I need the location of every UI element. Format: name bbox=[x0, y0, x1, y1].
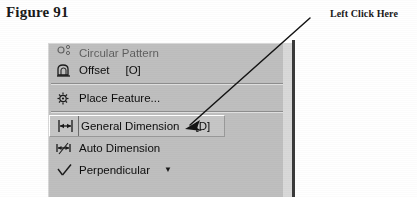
menu-item-perpendicular[interactable]: Perpendicular ▼ bbox=[49, 159, 295, 181]
general-dimension-icon bbox=[53, 116, 79, 136]
place-feature-icon bbox=[52, 89, 77, 107]
menu-item-label: Place Feature... bbox=[77, 92, 160, 104]
menu-item-circular-pattern[interactable]: Circular Pattern bbox=[49, 44, 295, 59]
menu-item-label: Auto Dimension bbox=[77, 142, 160, 154]
perpendicular-icon bbox=[52, 161, 77, 179]
menu-item-general-dimension[interactable]: General Dimension [D] bbox=[49, 115, 225, 137]
chevron-down-icon[interactable]: ▼ bbox=[150, 166, 172, 174]
menu-item-label: Circular Pattern bbox=[77, 47, 159, 59]
circular-pattern-icon bbox=[52, 44, 77, 59]
menu-separator bbox=[51, 111, 289, 113]
auto-dimension-icon bbox=[52, 139, 77, 157]
menu-item-place-feature[interactable]: Place Feature... bbox=[49, 87, 295, 109]
menu-item-label: Perpendicular bbox=[77, 164, 150, 176]
context-menu[interactable]: Circular Pattern Offset [O] bbox=[48, 43, 295, 197]
menu-edge-shadow bbox=[292, 40, 295, 197]
figure-caption: Figure 91 bbox=[6, 4, 69, 21]
menu-item-auto-dimension[interactable]: Auto Dimension bbox=[49, 137, 295, 159]
figure-page: Figure 91 Left Click Here Circular Patte… bbox=[0, 0, 417, 197]
annotation-label: Left Click Here bbox=[330, 8, 398, 19]
menu-item-offset[interactable]: Offset [O] bbox=[49, 59, 295, 81]
menu-separator bbox=[51, 83, 289, 85]
menu-edge-highlight bbox=[283, 43, 292, 197]
menu-item-label: Offset bbox=[77, 64, 109, 76]
menu-item-shortcut: [D] bbox=[179, 120, 210, 132]
menu-item-label: General Dimension bbox=[79, 120, 179, 132]
menu-item-shortcut: [O] bbox=[109, 64, 140, 76]
offset-icon bbox=[52, 61, 77, 79]
